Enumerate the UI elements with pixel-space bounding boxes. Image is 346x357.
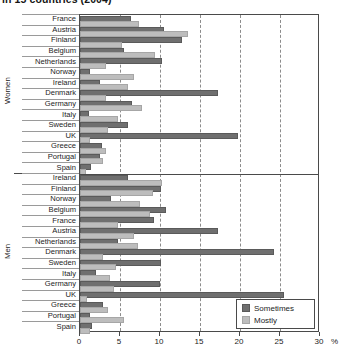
category-label-sweden: Sweden: [49, 121, 76, 129]
x-tick-label-5: 5: [117, 337, 121, 346]
x-tick-label-25: 25: [275, 337, 284, 346]
category-label-germany: Germany: [45, 100, 76, 108]
x-tick-5: [119, 332, 120, 336]
bar-men-uk-sometimes: [80, 292, 284, 298]
category-label-denmark: Denmark: [45, 89, 76, 97]
category-label-denmark: Denmark: [45, 248, 76, 256]
category-label-finland: Finland: [51, 36, 76, 44]
x-tick-15: [199, 332, 200, 336]
x-tick-25: [279, 332, 280, 336]
category-label-portugal: Portugal: [48, 153, 76, 161]
category-label-ireland: Ireland: [53, 174, 76, 182]
bar-women-germany-mostly: [80, 105, 142, 111]
category-label-austria: Austria: [52, 227, 76, 235]
x-tick-label-15: 15: [195, 337, 204, 346]
category-label-norway: Norway: [50, 195, 76, 203]
x-tick-label-0: 0: [77, 337, 81, 346]
category-label-belgium: Belgium: [49, 206, 76, 214]
x-tick-30: [319, 332, 320, 336]
bar-men-denmark-sometimes: [80, 249, 274, 255]
x-tick-10: [159, 332, 160, 336]
legend-item-mostly: Mostly: [242, 316, 277, 326]
x-axis-unit-label: %: [331, 337, 338, 346]
x-tick-label-30: 30: [315, 337, 324, 346]
group-label-women: Women: [3, 77, 12, 104]
category-label-greece: Greece: [51, 301, 76, 309]
chart-legend: Sometimes Mostly: [236, 299, 315, 329]
legend-swatch-mostly: [242, 316, 250, 324]
category-label-spain: Spain: [57, 323, 76, 331]
category-label-netherlands: Netherlands: [35, 58, 76, 66]
legend-label-sometimes: Sometimes: [254, 304, 294, 313]
category-label-germany: Germany: [45, 280, 76, 288]
plot-area: [79, 14, 319, 332]
category-label-italy: Italy: [62, 270, 76, 278]
category-label-france: France: [52, 217, 76, 225]
category-label-norway: Norway: [50, 68, 76, 76]
category-label-uk: UK: [65, 291, 76, 299]
legend-item-sometimes: Sometimes: [242, 304, 294, 314]
category-label-italy: Italy: [62, 111, 76, 119]
category-label-france: France: [52, 15, 76, 23]
gridline-25: [280, 15, 281, 331]
x-axis-tick-labels: 051015202530: [0, 337, 346, 351]
category-label-spain: Spain: [57, 164, 76, 172]
legend-swatch-sometimes: [242, 304, 250, 312]
category-label-portugal: Portugal: [48, 312, 76, 320]
category-label-greece: Greece: [51, 142, 76, 150]
chart-title: in 15 countries (2004): [2, 0, 112, 5]
chart-container: in 15 countries (2004) FranceAustriaFinl…: [0, 0, 346, 357]
x-tick-label-20: 20: [235, 337, 244, 346]
category-label-austria: Austria: [52, 26, 76, 34]
group-label-men: Men: [3, 244, 12, 259]
category-label-sweden: Sweden: [49, 259, 76, 267]
bar-women-uk-sometimes: [80, 133, 238, 139]
category-label-ireland: Ireland: [53, 79, 76, 87]
gridline-15: [200, 15, 201, 331]
legend-label-mostly: Mostly: [254, 316, 277, 325]
category-label-finland: Finland: [51, 185, 76, 193]
x-tick-20: [239, 332, 240, 336]
x-tick-0: [79, 332, 80, 336]
x-tick-label-10: 10: [155, 337, 164, 346]
category-label-belgium: Belgium: [49, 47, 76, 55]
category-label-column: FranceAustriaFinlandBelgiumNetherlandsNo…: [0, 14, 79, 332]
category-label-netherlands: Netherlands: [35, 238, 76, 246]
gridline-20: [240, 15, 241, 331]
category-label-uk: UK: [65, 132, 76, 140]
